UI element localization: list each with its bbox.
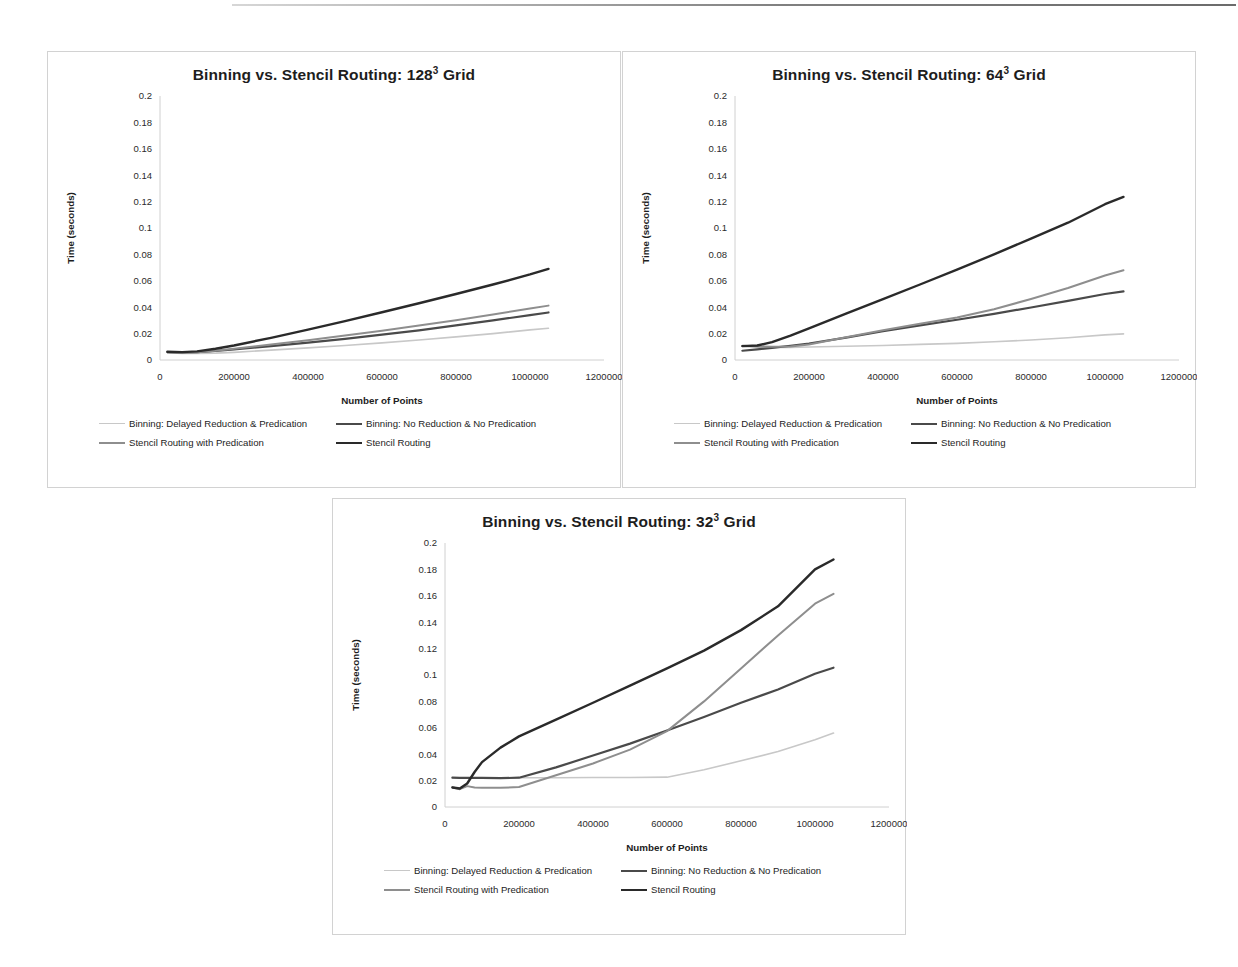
y-tick-label: 0.16: [134, 143, 153, 154]
legend-item-stencil-routing[interactable]: Stencil Routing: [621, 884, 854, 895]
x-tick-label: 1200000: [871, 818, 907, 829]
legend-label-binning-delayed: Binning: Delayed Reduction & Predication: [129, 418, 307, 429]
y-tick-label: 0.18: [134, 117, 153, 128]
y-tick-label: 0.14: [709, 170, 728, 181]
legend-item-binning-noreduction[interactable]: Binning: No Reduction & No Predication: [911, 418, 1144, 429]
chart-title-32: Binning vs. Stencil Routing: 323 Grid: [333, 512, 905, 531]
series-line-binning_noreduction: [452, 668, 833, 778]
x-axis-title: Number of Points: [341, 395, 423, 406]
legend-item-stencil-predication[interactable]: Stencil Routing with Predication: [384, 884, 617, 895]
x-tick-label: 1000000: [797, 818, 834, 829]
x-tick-label: 0: [157, 371, 162, 382]
x-tick-label: 1200000: [586, 371, 622, 382]
line-chart-32: 00.020.040.060.080.10.120.140.160.180.20…: [333, 531, 907, 861]
y-tick-label: 0.06: [709, 275, 728, 286]
legend-label-stencil-routing: Stencil Routing: [941, 437, 1006, 448]
series-line-stencil_routing: [452, 560, 833, 789]
plot-area-32: 00.020.040.060.080.10.120.140.160.180.20…: [333, 531, 905, 861]
legend-label-stencil-routing: Stencil Routing: [366, 437, 431, 448]
y-tick-label: 0.1: [139, 223, 152, 234]
x-axis-title: Number of Points: [916, 395, 998, 406]
legend-label-stencil-routing: Stencil Routing: [651, 884, 716, 895]
legend-label-stencil-predication: Stencil Routing with Predication: [704, 437, 839, 448]
y-tick-label: 0.06: [419, 722, 438, 733]
x-tick-label: 1000000: [1087, 371, 1124, 382]
legend-label-stencil-predication: Stencil Routing with Predication: [129, 437, 264, 448]
y-tick-label: 0.2: [139, 91, 152, 102]
x-tick-label: 200000: [793, 371, 825, 382]
chart-title-64: Binning vs. Stencil Routing: 643 Grid: [623, 65, 1195, 84]
line-chart-64: 00.020.040.060.080.10.120.140.160.180.20…: [623, 84, 1197, 414]
y-tick-label: 0.2: [424, 538, 437, 549]
chart-title-128: Binning vs. Stencil Routing: 1283 Grid: [48, 65, 620, 84]
y-axis-title: Time (seconds): [640, 192, 651, 264]
legend-label-stencil-predication: Stencil Routing with Predication: [414, 884, 549, 895]
x-tick-label: 600000: [941, 371, 973, 382]
legend-item-stencil-predication[interactable]: Stencil Routing with Predication: [674, 437, 907, 448]
legend-swatch-binning-noreduction: [911, 423, 937, 425]
legend-swatch-stencil-routing: [621, 889, 647, 891]
y-tick-label: 0.18: [709, 117, 728, 128]
legend-item-binning-delayed[interactable]: Binning: Delayed Reduction & Predication: [674, 418, 907, 429]
y-tick-label: 0.18: [419, 564, 438, 575]
x-tick-label: 800000: [440, 371, 472, 382]
legend-32: Binning: Delayed Reduction & Predication…: [384, 861, 854, 895]
legend-label-binning-delayed: Binning: Delayed Reduction & Predication: [704, 418, 882, 429]
legend-item-binning-noreduction[interactable]: Binning: No Reduction & No Predication: [336, 418, 569, 429]
chart-panel-128: Binning vs. Stencil Routing: 1283 Grid 0…: [47, 51, 621, 488]
y-tick-label: 0.04: [134, 302, 153, 313]
y-tick-label: 0.2: [714, 91, 727, 102]
legend-swatch-binning-noreduction: [621, 870, 647, 872]
y-tick-label: 0: [432, 802, 437, 813]
legend-swatch-binning-noreduction: [336, 423, 362, 425]
legend-swatch-stencil-routing: [336, 442, 362, 444]
y-tick-label: 0: [147, 355, 152, 366]
legend-64: Binning: Delayed Reduction & Predication…: [674, 414, 1144, 448]
y-tick-label: 0.1: [424, 670, 437, 681]
y-tick-label: 0.02: [709, 328, 728, 339]
series-line-stencil_predication: [742, 270, 1123, 347]
x-tick-label: 200000: [218, 371, 250, 382]
legend-item-binning-noreduction[interactable]: Binning: No Reduction & No Predication: [621, 865, 854, 876]
legend-item-stencil-routing[interactable]: Stencil Routing: [336, 437, 569, 448]
y-tick-label: 0.16: [419, 590, 438, 601]
legend-swatch-binning-delayed: [384, 870, 410, 871]
legend-swatch-stencil-predication: [99, 442, 125, 444]
legend-swatch-binning-delayed: [99, 423, 125, 424]
page-top-rule: [232, 4, 1236, 6]
y-tick-label: 0.04: [419, 749, 438, 760]
legend-swatch-stencil-routing: [911, 442, 937, 444]
y-tick-label: 0.02: [134, 328, 153, 339]
legend-item-binning-delayed[interactable]: Binning: Delayed Reduction & Predication: [99, 418, 332, 429]
x-tick-label: 1000000: [512, 371, 549, 382]
plot-area-64: 00.020.040.060.080.10.120.140.160.180.20…: [623, 84, 1195, 414]
y-tick-label: 0.08: [134, 249, 153, 260]
y-tick-label: 0.12: [709, 196, 728, 207]
x-tick-label: 600000: [651, 818, 683, 829]
legend-item-binning-delayed[interactable]: Binning: Delayed Reduction & Predication: [384, 865, 617, 876]
x-tick-label: 800000: [725, 818, 757, 829]
legend-swatch-binning-delayed: [674, 423, 700, 424]
x-tick-label: 800000: [1015, 371, 1047, 382]
y-tick-label: 0.14: [419, 617, 438, 628]
x-tick-label: 400000: [292, 371, 324, 382]
x-tick-label: 400000: [867, 371, 899, 382]
chart-panel-32: Binning vs. Stencil Routing: 323 Grid 00…: [332, 498, 906, 935]
x-tick-label: 0: [732, 371, 737, 382]
x-axis-title: Number of Points: [626, 842, 708, 853]
y-tick-label: 0.1: [714, 223, 727, 234]
y-tick-label: 0.12: [134, 196, 153, 207]
y-tick-label: 0.16: [709, 143, 728, 154]
legend-label-binning-noreduction: Binning: No Reduction & No Predication: [651, 865, 821, 876]
line-chart-128: 00.020.040.060.080.10.120.140.160.180.20…: [48, 84, 622, 414]
legend-label-binning-noreduction: Binning: No Reduction & No Predication: [366, 418, 536, 429]
x-tick-label: 0: [442, 818, 447, 829]
y-tick-label: 0.08: [709, 249, 728, 260]
legend-item-stencil-predication[interactable]: Stencil Routing with Predication: [99, 437, 332, 448]
x-tick-label: 400000: [577, 818, 609, 829]
x-tick-label: 200000: [503, 818, 535, 829]
legend-128: Binning: Delayed Reduction & Predication…: [99, 414, 569, 448]
legend-item-stencil-routing[interactable]: Stencil Routing: [911, 437, 1144, 448]
y-axis-title: Time (seconds): [65, 192, 76, 264]
y-tick-label: 0.12: [419, 643, 438, 654]
